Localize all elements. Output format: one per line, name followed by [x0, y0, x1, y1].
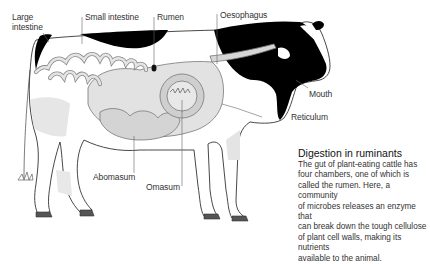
caption: Digestion in ruminants The gut of plant-… [298, 147, 430, 264]
caption-line: called the rumen. Here, a community [298, 181, 430, 202]
label-rumen: Rumen [157, 12, 184, 22]
caption-title: Digestion in ruminants [298, 147, 430, 159]
caption-line: The gut of plant-eating cattle has [298, 160, 430, 170]
caption-line: available to the animal. [298, 254, 430, 264]
label-large-intestine-line2: intestine [12, 22, 43, 32]
caption-line: of microbes releases an enzyme that [298, 202, 430, 223]
caption-line: four chambers, one of which is [298, 170, 430, 180]
label-mouth: Mouth [309, 89, 332, 99]
label-large-intestine-line1: Large [12, 12, 43, 22]
label-omasum: Omasum [146, 182, 180, 192]
label-abomasum: Abomasum [93, 172, 135, 182]
caption-line: of plant cell walls, making its nutrient… [298, 233, 430, 254]
label-small-intestine: Small intestine [85, 12, 139, 22]
label-reticulum: Reticulum [291, 112, 328, 122]
tail-tuft [18, 172, 33, 180]
caption-line: can break down the tough cellulose [298, 222, 430, 232]
hooves [36, 210, 248, 221]
caption-body: The gut of plant-eating cattle has four … [298, 160, 430, 264]
label-oesophagus: Oesophagus [220, 10, 267, 20]
label-large-intestine: Large intestine [12, 12, 43, 32]
